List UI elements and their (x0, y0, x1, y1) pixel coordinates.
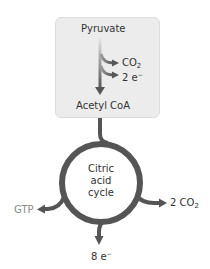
electron-byproduct-label: 2 e− (122, 69, 143, 84)
cycle-label-line1: Citric (71, 163, 131, 175)
cycle-label-line2: acid (71, 175, 131, 187)
gtp-output-arrow (37, 197, 64, 214)
co2-branch-arrow (101, 54, 119, 67)
electron-output-label: 8 e− (91, 248, 112, 263)
gtp-output-label: GTP (14, 204, 34, 216)
pyruvate-label: Pyruvate (81, 23, 126, 35)
co2-output-label: 2 CO2 (170, 197, 199, 212)
pathway-diagram (0, 0, 210, 269)
citric-acid-cycle-label: Citric acid cycle (71, 163, 131, 199)
electron-branch-arrow (101, 66, 119, 79)
co2-output-arrow (137, 196, 167, 208)
acetyl-coa-label: Acetyl CoA (76, 100, 130, 112)
cycle-label-line3: cycle (71, 187, 131, 199)
acetylcoa-to-cycle-connector (100, 118, 108, 143)
